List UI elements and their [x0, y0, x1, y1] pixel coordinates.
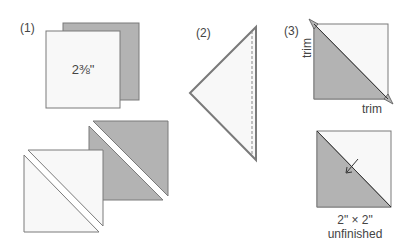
- trim-label-bottom: trim: [362, 102, 382, 116]
- result-note: unfinished: [328, 227, 383, 241]
- step-1-label: (1): [20, 21, 35, 35]
- step-3-label: (3): [284, 24, 299, 38]
- cut-pieces: [24, 121, 168, 232]
- step-1: (1) 2⅜": [20, 21, 139, 108]
- trim-label-left: trim: [300, 38, 314, 58]
- square-size-label: 2⅜": [72, 62, 95, 77]
- pressed-triangle: [190, 27, 256, 160]
- step-2: (2): [190, 26, 256, 160]
- step-3: (3) trim trim: [284, 19, 393, 116]
- step-2-label: (2): [196, 26, 211, 40]
- result-size: 2" × 2": [337, 213, 373, 227]
- finished-block: 2" × 2" unfinished: [317, 131, 391, 241]
- hst-diagram: (1) 2⅜" (2) (3) trim trim 2" × 2" unfini…: [0, 0, 406, 252]
